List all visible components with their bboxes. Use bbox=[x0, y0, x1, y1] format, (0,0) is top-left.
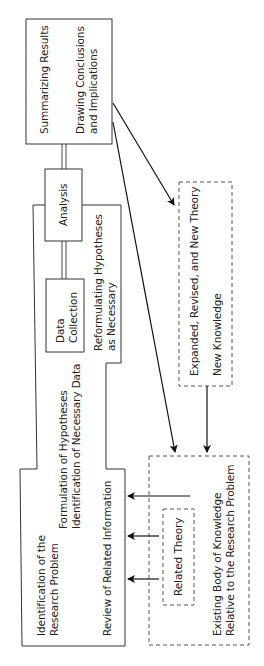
drawing-conclusions-label: Drawing Conclusions and Implications bbox=[74, 26, 100, 134]
analysis-label: Analysis bbox=[57, 184, 70, 226]
expanded-theory-box bbox=[179, 182, 232, 386]
identification-label: Identification of the Research Problem bbox=[35, 535, 61, 636]
reformulating-label: Reformulating Hypotheses as Necessary bbox=[92, 214, 118, 351]
data-collection-label: Data Collection bbox=[54, 292, 80, 343]
new-knowledge-label: New Knowledge bbox=[211, 293, 224, 376]
summarizing-label: Summarizing Results bbox=[38, 25, 51, 134]
related-theory-label: Related Theory bbox=[172, 518, 185, 596]
existing-body-label: Existing Body of Knowledge Relative to t… bbox=[211, 465, 237, 636]
expanded-theory-label: Expanded, Revised, and New Theory bbox=[188, 187, 201, 376]
formulation-label: Formulation of Hypotheses Identification… bbox=[57, 364, 83, 529]
review-label: Review of Related Information bbox=[101, 481, 114, 636]
